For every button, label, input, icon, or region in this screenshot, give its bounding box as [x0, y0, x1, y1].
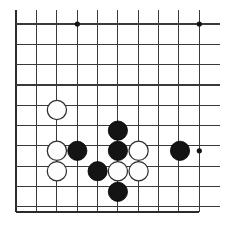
- stone-black-7: [170, 141, 189, 160]
- stone-black-2: [108, 121, 127, 140]
- stone-black-4: [68, 141, 87, 160]
- star-point-top-left: [75, 21, 80, 26]
- stone-white-1: [47, 100, 66, 119]
- star-point-top-right: [197, 21, 202, 26]
- stone-black-5: [108, 141, 127, 160]
- stone-black-9: [88, 162, 107, 181]
- stone-black-12: [108, 182, 127, 201]
- stone-white-10: [108, 162, 127, 181]
- stone-white-3: [47, 141, 66, 160]
- stone-white-8: [47, 162, 66, 181]
- stone-white-11: [129, 162, 148, 181]
- stone-white-6: [129, 141, 148, 160]
- go-board-diagram: [0, 0, 227, 229]
- star-point-center-right: [197, 148, 202, 153]
- go-board-canvas: [0, 0, 227, 229]
